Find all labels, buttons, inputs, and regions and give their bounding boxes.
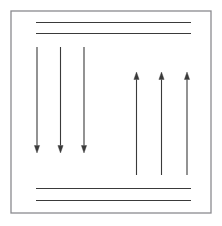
arrowhead bbox=[34, 146, 39, 154]
arrows-layer bbox=[34, 47, 189, 175]
up-arrow-2 bbox=[159, 72, 164, 175]
arrowhead bbox=[184, 72, 189, 80]
arrowhead bbox=[134, 72, 139, 80]
up-arrow-3 bbox=[184, 72, 189, 175]
upward-arrow-group bbox=[134, 72, 190, 175]
frame-layer bbox=[11, 11, 211, 213]
outer-border bbox=[11, 11, 211, 213]
downward-arrow-group bbox=[34, 47, 86, 153]
arrowhead bbox=[58, 146, 63, 154]
down-arrow-3 bbox=[81, 47, 86, 153]
flow-diagram bbox=[0, 0, 222, 226]
arrowhead bbox=[81, 146, 86, 154]
up-arrow-1 bbox=[134, 72, 139, 175]
horizontal-lines-layer bbox=[36, 23, 191, 201]
down-arrow-1 bbox=[34, 47, 39, 153]
figure-container bbox=[0, 0, 222, 226]
arrowhead bbox=[159, 72, 164, 80]
down-arrow-2 bbox=[58, 47, 63, 153]
